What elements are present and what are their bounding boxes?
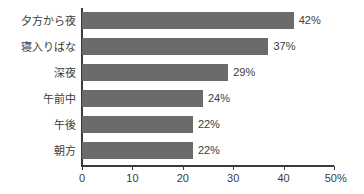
category-label: 午後 <box>0 112 76 138</box>
x-axis-tick-label: 50% <box>325 172 347 184</box>
bar-rows: 夕方から夜42%寝入りばな37%深夜29%午前中24%午後22%朝方22% <box>0 8 364 165</box>
category-label: 寝入りばな <box>0 34 76 60</box>
x-axis-tick-label: 20 <box>177 172 189 184</box>
bar-row: 午後22% <box>0 112 364 138</box>
x-axis-tick <box>183 166 184 170</box>
x-axis-tick <box>334 166 335 170</box>
x-axis-tick <box>132 166 133 170</box>
bar <box>82 90 203 107</box>
x-axis-tick <box>284 166 285 170</box>
bar-value-label: 42% <box>299 12 321 29</box>
x-axis-tick-label: 40 <box>277 172 289 184</box>
x-axis-tick-label: 30 <box>227 172 239 184</box>
bar-row: 寝入りばな37% <box>0 34 364 60</box>
bar-row: 午前中24% <box>0 86 364 112</box>
category-label: 朝方 <box>0 138 76 164</box>
bar-value-label: 22% <box>198 116 220 133</box>
bar-row: 深夜29% <box>0 60 364 86</box>
category-label: 午前中 <box>0 86 76 112</box>
bar-value-label: 37% <box>273 38 295 55</box>
bar-value-label: 24% <box>208 90 230 107</box>
bar-chart: 夕方から夜42%寝入りばな37%深夜29%午前中24%午後22%朝方22% 01… <box>0 0 364 194</box>
category-label: 夕方から夜 <box>0 8 76 34</box>
bar <box>82 38 268 55</box>
bar-row: 夕方から夜42% <box>0 8 364 34</box>
bar <box>82 64 228 81</box>
bar-value-label: 22% <box>198 142 220 159</box>
x-axis-tick-label: 0 <box>79 172 85 184</box>
x-axis-line <box>81 165 334 167</box>
x-axis-tick-label: 10 <box>126 172 138 184</box>
bar <box>82 12 294 29</box>
x-axis-tick <box>233 166 234 170</box>
x-axis-tick <box>82 166 83 170</box>
bar <box>82 142 193 159</box>
category-label: 深夜 <box>0 60 76 86</box>
bar-row: 朝方22% <box>0 138 364 164</box>
bar-value-label: 29% <box>233 64 255 81</box>
bar <box>82 116 193 133</box>
